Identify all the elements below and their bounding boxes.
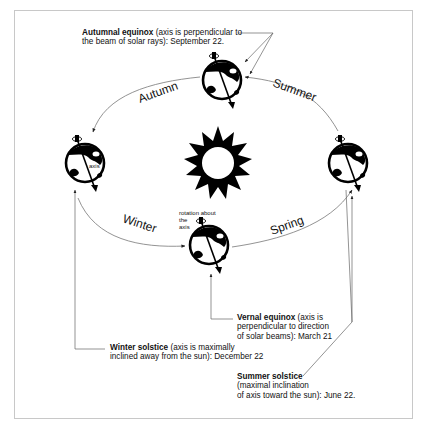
earth-vernal-equinox xyxy=(190,217,228,274)
earth-summer-solstice xyxy=(329,135,367,192)
sun-icon xyxy=(184,126,252,199)
season-label-winter: Winter xyxy=(121,212,158,236)
season-label-summer: Summer xyxy=(271,76,318,105)
leader-summer xyxy=(303,196,352,376)
earth-autumnal-equinox xyxy=(203,52,241,109)
rotation-label-2: the xyxy=(179,217,188,223)
axis-label: axis xyxy=(89,163,100,169)
rotation-label-3: axis xyxy=(179,224,190,230)
orbit-diagram: Autumn Summer Winter Spring axis rotatio… xyxy=(0,0,426,433)
rotation-label-1: rotation about xyxy=(179,210,216,216)
leader-winter xyxy=(75,190,105,349)
annotation-autumnal-equinox: Autumnal equinox (axis is perpendicular … xyxy=(82,28,282,47)
leader-vernal xyxy=(211,274,233,319)
annotation-winter-solstice: Winter solstice (axis is maximally incli… xyxy=(110,343,300,362)
annotation-summer-solstice: Summer solstice (maximal inclination of … xyxy=(237,372,377,400)
season-label-spring: Spring xyxy=(268,213,305,238)
annotation-vernal-equinox: Vernal equinox (axis is perpendicular to… xyxy=(237,313,357,341)
seasons-diagram: Autumn Summer Winter Spring axis rotatio… xyxy=(0,0,426,433)
season-label-autumn: Autumn xyxy=(136,79,180,106)
